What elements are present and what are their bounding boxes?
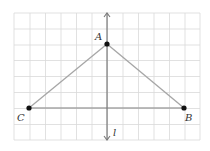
triangle-diagram: l A B C (0, 0, 210, 151)
segment-ab (107, 44, 184, 108)
segment-ac (29, 44, 107, 108)
point-c-label: C (17, 112, 25, 123)
point-b-label: B (184, 112, 192, 123)
point-a-label: A (94, 31, 102, 42)
line-l-label: l (113, 127, 116, 138)
point-c (26, 105, 31, 110)
point-a (104, 41, 109, 46)
point-b (181, 105, 186, 110)
